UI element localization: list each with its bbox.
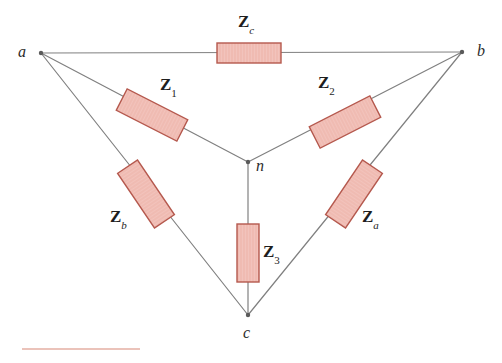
impedance-label-Za-subscript: a (373, 219, 379, 231)
circuit-canvas (0, 0, 502, 363)
impedance-label-Z3: Z3 (263, 243, 280, 263)
junction-dot-a (39, 51, 43, 55)
impedance-label-Z3-symbol: Z (263, 242, 274, 261)
impedance-label-Z3-subscript: 3 (274, 254, 280, 266)
impedance-box-Zc (217, 43, 281, 63)
circuit-diagram: a b c n Zc Z1 Z2 Z3 Zb Za (0, 0, 502, 363)
impedance-label-Z1-subscript: 1 (171, 87, 177, 99)
impedance-label-Zb-subscript: b (121, 219, 127, 231)
impedance-box-Z2 (309, 96, 380, 148)
node-label-c: c (243, 325, 250, 341)
junction-dot-n (246, 160, 250, 164)
node-label-b: b (477, 43, 485, 59)
impedance-label-Zb-symbol: Z (110, 207, 121, 226)
impedance-label-Z1: Z1 (160, 76, 177, 96)
impedance-box-Z1 (116, 89, 187, 141)
node-label-a: a (18, 44, 26, 60)
impedance-label-Zc-symbol: Z (238, 12, 249, 31)
impedance-label-Za-symbol: Z (362, 207, 373, 226)
impedance-label-Z2: Z2 (318, 74, 335, 94)
impedance-label-Z1-symbol: Z (160, 75, 171, 94)
impedance-label-Z2-symbol: Z (318, 73, 329, 92)
junction-dot-b (460, 50, 464, 54)
impedance-label-Zc: Zc (238, 13, 254, 33)
node-label-n: n (256, 158, 264, 174)
bottom-rule (22, 348, 140, 350)
impedance-label-Zb: Zb (110, 208, 127, 228)
impedance-label-Z2-subscript: 2 (329, 85, 335, 97)
junction-dot-c (246, 313, 250, 317)
impedance-label-Za: Za (362, 208, 379, 228)
impedance-label-Zc-subscript: c (249, 24, 254, 36)
impedance-box-Z3 (237, 224, 259, 282)
